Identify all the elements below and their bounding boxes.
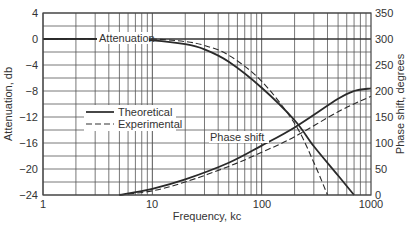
y2-tick: 350 <box>375 7 393 19</box>
y2-tick: 200 <box>375 85 393 97</box>
x-axis-label: Frequency, kc <box>173 210 242 222</box>
chart: 4 0 −4 −8 −12 −16 −20 −24 350 300 250 20… <box>0 0 409 228</box>
y-tick: −24 <box>19 189 38 201</box>
y-axis-label: Attenuation, db <box>2 67 14 141</box>
legend-theoretical: Theoretical <box>118 106 172 118</box>
y-tick: −8 <box>25 85 38 97</box>
x-tick: 1000 <box>359 198 383 210</box>
x-tick: 100 <box>253 198 271 210</box>
x-tick: 1 <box>40 198 46 210</box>
y2-tick: 50 <box>375 163 387 175</box>
y-tick: 4 <box>32 7 38 19</box>
grid <box>43 13 371 195</box>
legend-experimental: Experimental <box>118 118 182 130</box>
y2-axis-label: Phase shift, degrees <box>394 53 406 154</box>
y-tick: −12 <box>19 111 38 123</box>
y2-tick: 100 <box>375 137 393 149</box>
y2-tick: 250 <box>375 59 393 71</box>
y2-tick: 150 <box>375 111 393 123</box>
annotation-attenuation: Attenuation <box>99 32 155 44</box>
y-tick: −16 <box>19 137 38 149</box>
y-tick: 0 <box>32 33 38 45</box>
y-tick: −20 <box>19 163 38 175</box>
y2-tick: 300 <box>375 33 393 45</box>
y-tick: −4 <box>25 59 38 71</box>
x-tick: 10 <box>146 198 158 210</box>
annotation-phase-shift: Phase shift <box>210 131 264 143</box>
